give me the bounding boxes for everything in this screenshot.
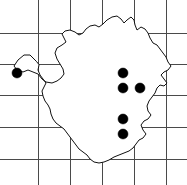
occurrence-dot-record-4 [135,83,145,93]
occurrence-dot-record-5 [118,114,128,124]
occurrence-dot-record-3 [118,83,128,93]
map-canvas [0,0,187,185]
occurrence-dot-record-2 [118,68,128,78]
occurrence-dot-record-1 [12,68,22,78]
occurrence-dot-record-6 [118,129,128,139]
distribution-map-figure [0,0,187,185]
